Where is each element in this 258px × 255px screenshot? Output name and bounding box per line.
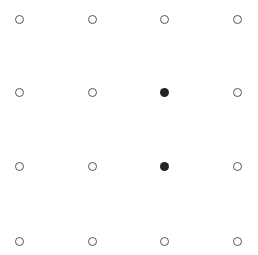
filled-dot-icon[interactable] [160, 162, 169, 171]
empty-dot-icon[interactable] [88, 15, 97, 24]
filled-dot-icon[interactable] [160, 88, 169, 97]
empty-dot-icon[interactable] [233, 15, 242, 24]
empty-dot-icon[interactable] [233, 162, 242, 171]
empty-dot-icon[interactable] [88, 237, 97, 246]
empty-dot-icon[interactable] [15, 162, 24, 171]
empty-dot-icon[interactable] [88, 88, 97, 97]
empty-dot-icon[interactable] [15, 237, 24, 246]
dot-grid-board [0, 0, 258, 255]
empty-dot-icon[interactable] [233, 88, 242, 97]
empty-dot-icon[interactable] [15, 15, 24, 24]
empty-dot-icon[interactable] [160, 15, 169, 24]
empty-dot-icon[interactable] [88, 162, 97, 171]
empty-dot-icon[interactable] [233, 237, 242, 246]
empty-dot-icon[interactable] [15, 88, 24, 97]
empty-dot-icon[interactable] [160, 237, 169, 246]
